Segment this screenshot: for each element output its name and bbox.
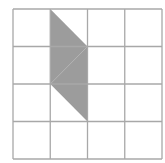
- grid-diagram: [0, 0, 165, 163]
- grid-lines: [13, 9, 162, 159]
- shaded-parallelogram: [50, 9, 87, 122]
